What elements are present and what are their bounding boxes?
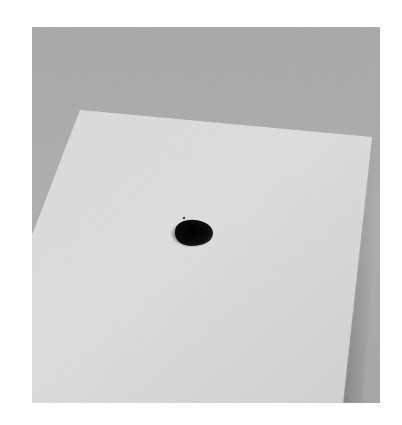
ink-speck <box>183 217 185 219</box>
photograph <box>32 27 380 403</box>
photo-scene <box>32 27 380 403</box>
image-canvas: A single drop of dark ink on a sheet of … <box>0 0 402 425</box>
image-alt-text: A single drop of dark ink on a sheet of … <box>0 0 1 1</box>
